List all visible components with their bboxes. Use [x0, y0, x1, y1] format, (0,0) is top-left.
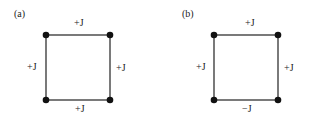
panel-a-label: (a): [14, 9, 25, 19]
panel-a-square: [43, 32, 114, 104]
panel-a-right-bond: +J: [116, 63, 126, 73]
panel-a-top-bond: +J: [74, 18, 84, 28]
panel-a-bottom-bond: +J: [75, 104, 85, 114]
panel-b-right-bond: +J: [284, 63, 294, 73]
panel-b-top-bond: +J: [245, 18, 255, 28]
panel-b-square: [211, 32, 282, 104]
panel-a-left-bond: +J: [27, 62, 37, 72]
panel-b-left-bond: +J: [196, 62, 206, 72]
panel-b-bottom-bond: −J: [242, 104, 252, 114]
panel-b-label: (b): [182, 9, 194, 19]
plaquette-diagram: [0, 0, 310, 118]
